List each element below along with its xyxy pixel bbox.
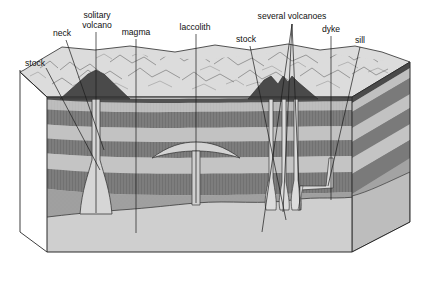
label-stock-left: stock (25, 58, 46, 68)
label-dyke: dyke (322, 24, 340, 34)
block-diagram: stock neck solitary volcano magma laccol… (0, 0, 434, 290)
label-neck: neck (53, 28, 72, 38)
label-several-volcanoes: several volcanoes (258, 11, 327, 21)
label-solitary-volcano-line1: solitary (83, 10, 111, 20)
label-stock-mid: stock (236, 34, 257, 44)
figure-canvas: stock neck solitary volcano magma laccol… (0, 0, 434, 290)
label-laccolith: laccolith (179, 22, 210, 32)
front-face-strata (40, 95, 362, 256)
label-sill: sill (355, 35, 365, 45)
label-solitary-volcano-line2: volcano (82, 20, 112, 30)
label-magma: magma (122, 27, 151, 37)
